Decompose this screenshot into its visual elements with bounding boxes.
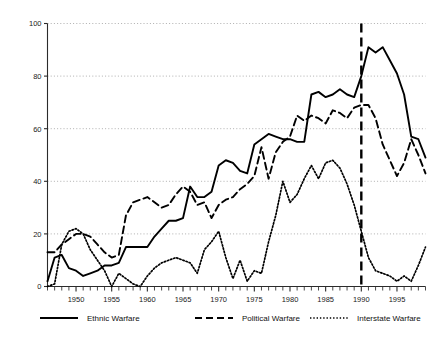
y-tick-label: 80 bbox=[33, 72, 41, 81]
series-line-interstate-warfare bbox=[48, 160, 426, 286]
y-axis bbox=[44, 24, 48, 287]
x-tick-label: 1965 bbox=[175, 295, 192, 304]
y-tick-label: 100 bbox=[29, 19, 42, 28]
data-series bbox=[48, 47, 426, 286]
legend-label-interstate-warfare: Interstate Warfare bbox=[357, 314, 421, 323]
y-tick-label: 20 bbox=[33, 230, 41, 239]
x-tick-label: 1980 bbox=[282, 295, 299, 304]
x-tick-label: 1950 bbox=[68, 295, 85, 304]
chart-container: 020406080100 195019551960196519701975198… bbox=[0, 0, 447, 338]
legend-label-ethnic-warfare: Ethnic Warfare bbox=[87, 314, 140, 323]
line-chart: 020406080100 195019551960196519701975198… bbox=[0, 0, 447, 338]
x-tick-label: 1975 bbox=[246, 295, 263, 304]
legend-label-political-warfare: Political Warfare bbox=[242, 314, 300, 323]
series-line-ethnic-warfare bbox=[48, 47, 426, 281]
x-tick-label: 1985 bbox=[317, 295, 334, 304]
y-tick-labels: 020406080100 bbox=[29, 19, 42, 291]
y-tick-label: 40 bbox=[33, 177, 41, 186]
x-tick-label: 1995 bbox=[389, 295, 406, 304]
x-axis bbox=[48, 287, 426, 292]
x-tick-label: 1960 bbox=[139, 295, 156, 304]
x-tick-label: 1990 bbox=[353, 295, 370, 304]
x-tick-label: 1955 bbox=[103, 295, 120, 304]
x-tick-label: 1970 bbox=[210, 295, 227, 304]
chart-legend: Ethnic WarfarePolitical WarfareInterstat… bbox=[40, 314, 421, 323]
x-tick-labels: 1950195519601965197019751980198519901995 bbox=[68, 295, 406, 304]
y-tick-label: 60 bbox=[33, 125, 41, 134]
y-tick-label: 0 bbox=[37, 282, 41, 291]
grid-lines bbox=[48, 24, 426, 234]
